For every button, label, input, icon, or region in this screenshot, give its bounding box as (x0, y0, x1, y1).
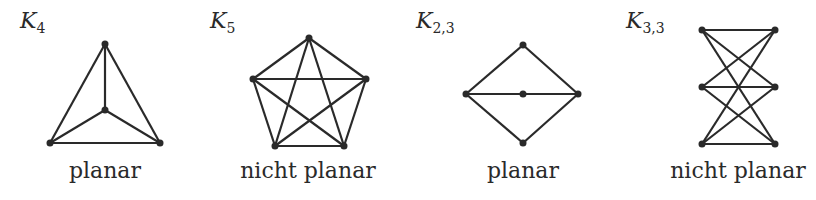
vertex (575, 91, 582, 98)
edge (253, 38, 309, 79)
caption-k5: nicht planar (218, 158, 398, 183)
graph-K2,3 (463, 42, 582, 147)
title-k23: K2,3 (416, 8, 455, 36)
edge (466, 94, 523, 143)
title-k4: K4 (20, 8, 45, 36)
vertex (699, 27, 706, 34)
vertex (699, 141, 706, 148)
caption-k33: nicht planar (648, 158, 816, 183)
title-k5: K5 (210, 8, 235, 36)
vertex (520, 140, 527, 147)
vertex (47, 140, 54, 147)
edge (523, 45, 578, 94)
vertex (306, 35, 313, 42)
graph-K4 (47, 41, 164, 147)
vertex (772, 84, 779, 91)
edge (50, 44, 105, 143)
vertex (520, 42, 527, 49)
vertex (463, 91, 470, 98)
edge (309, 38, 366, 79)
edge (309, 38, 344, 146)
vertex (250, 76, 257, 83)
edge (253, 79, 344, 146)
vertex (772, 27, 779, 34)
vertex (102, 107, 109, 114)
vertex (772, 141, 779, 148)
edge (523, 94, 578, 143)
vertex (341, 143, 348, 150)
edge (344, 79, 366, 146)
caption-k23: planar (433, 158, 613, 183)
edge (275, 79, 366, 146)
vertex (272, 143, 279, 150)
edge (466, 45, 523, 94)
vertex (102, 41, 109, 48)
title-k33: K3,3 (626, 8, 665, 36)
edge (253, 79, 275, 146)
edge (105, 44, 160, 143)
graph-K5 (250, 35, 370, 150)
vertex (363, 76, 370, 83)
vertex (699, 84, 706, 91)
graph-K3,3 (699, 27, 779, 148)
vertex (520, 91, 527, 98)
caption-k4: planar (15, 158, 195, 183)
vertex (157, 140, 164, 147)
edge (275, 38, 309, 146)
